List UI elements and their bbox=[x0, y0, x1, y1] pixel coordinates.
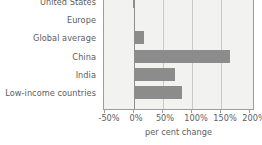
tick-label--50: -50% bbox=[98, 113, 119, 124]
plot-area bbox=[103, 0, 254, 110]
category-label-united-states: United States bbox=[0, 0, 96, 7]
x-axis-tick-labels: -50% 0% 50% 100% 150% 200% bbox=[0, 113, 262, 125]
tick-label-50: 50% bbox=[156, 113, 174, 124]
tick-label-0: 0% bbox=[130, 113, 143, 124]
bar-india bbox=[135, 68, 175, 81]
category-label-china: China bbox=[0, 53, 96, 62]
tick-label-200: 200% bbox=[242, 113, 262, 124]
bar-low-income-countries bbox=[135, 86, 182, 99]
bar-chart: United States Europe Global average Chin… bbox=[0, 0, 262, 145]
tick-label-150: 150% bbox=[213, 113, 236, 124]
category-label-low-income-countries: Low-income countries bbox=[0, 89, 96, 98]
category-label-india: India bbox=[0, 71, 96, 80]
category-label-europe: Europe bbox=[0, 16, 96, 25]
x-axis-title: per cent change bbox=[103, 127, 254, 138]
tick-label-100: 100% bbox=[184, 113, 207, 124]
category-label-global-average: Global average bbox=[0, 34, 96, 43]
bar-china bbox=[135, 50, 230, 63]
category-axis-labels: United States Europe Global average Chin… bbox=[0, 0, 99, 110]
bar-global-average bbox=[135, 31, 144, 44]
bar-united-states bbox=[133, 0, 134, 8]
